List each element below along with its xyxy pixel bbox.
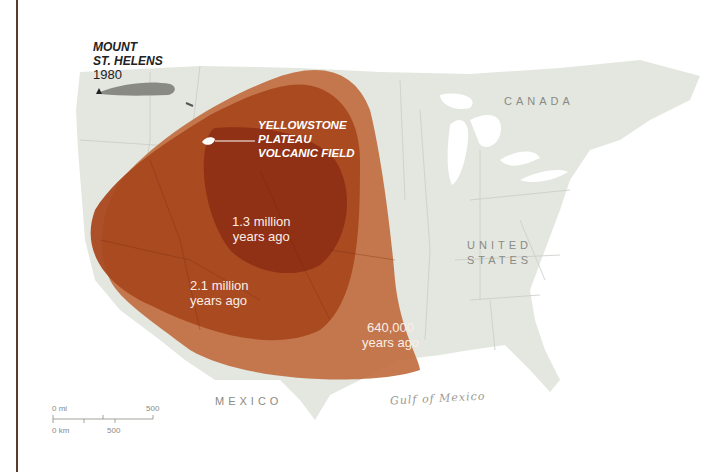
eruption-label-640k: 640,000 years ago (362, 320, 419, 350)
mount-st-helens-label: MOUNT ST. HELENS 1980 (93, 40, 163, 82)
scale-bar (53, 415, 153, 423)
eruption-label-1-3m: 1.3 million years ago (232, 214, 291, 244)
scale-km-start: 0 km (52, 426, 69, 435)
label-canada: CANADA (504, 95, 574, 107)
scale-mi-end: 500 (146, 404, 159, 413)
label-united-states: UNITED STATES (467, 238, 532, 268)
label-mexico: MEXICO (215, 395, 282, 407)
scale-mi-start: 0 mi (52, 404, 67, 413)
yellowstone-label: YELLOWSTONE PLATEAU VOLCANIC FIELD (258, 118, 354, 160)
scale-km-mid: 500 (107, 426, 120, 435)
eruption-label-2-1m: 2.1 million years ago (190, 278, 249, 308)
